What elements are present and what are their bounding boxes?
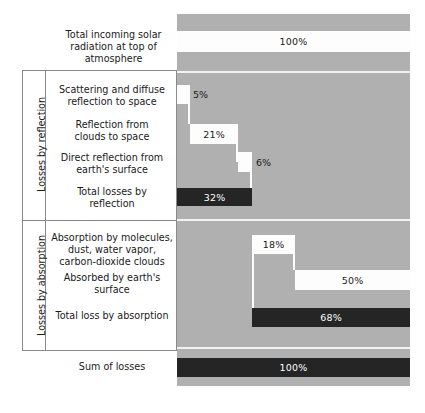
row-label-total-incoming-line3: atmosphere — [56, 53, 171, 65]
solar-radiation-waterfall-chart: 100% 5% 21% 6% 32% 18% 50% 68% 100% Tota… — [0, 0, 425, 413]
group-bracket-section-divider — [22, 220, 177, 221]
bar-total-incoming-solar: 100% — [177, 31, 410, 52]
bar-scattering-diffuse — [177, 85, 190, 104]
connector-direct-to-total-reflection — [250, 172, 252, 188]
row-label-total-incoming: Total incoming solar radiation at top of… — [56, 29, 171, 65]
connector-absorption-left-rail — [252, 254, 254, 308]
panel-separator-absorption — [177, 347, 410, 349]
row-label-total-incoming-line1: Total incoming solar — [56, 29, 171, 41]
bar-absorption-molecules: 18% — [252, 235, 295, 254]
bar-value-direct-reflection-earth: 6% — [256, 158, 271, 168]
bar-absorbed-earth-surface: 50% — [295, 270, 410, 290]
bar-sum-of-losses: 100% — [177, 358, 410, 377]
row-label-sum-of-losses: Sum of losses — [48, 361, 176, 373]
group-title-losses-by-reflection: Losses by reflection — [36, 92, 47, 198]
bar-total-loss-absorption: 68% — [252, 308, 410, 327]
row-label-sum-of-losses-line1: Sum of losses — [48, 361, 176, 373]
bar-value-scattering-diffuse: 5% — [193, 90, 208, 100]
connector-molecules-to-surface — [293, 254, 295, 270]
panel-separator-incoming — [177, 71, 410, 73]
panel-separator-reflection — [177, 219, 410, 221]
bar-total-losses-reflection: 32% — [177, 188, 252, 206]
group-title-losses-by-absorption: Losses by absorption — [36, 231, 47, 341]
bar-direct-reflection-earth — [238, 152, 252, 172]
bar-reflection-from-clouds: 21% — [190, 124, 238, 144]
row-label-total-incoming-line2: radiation at top of — [56, 41, 171, 53]
connector-scattering-to-clouds — [188, 104, 190, 124]
